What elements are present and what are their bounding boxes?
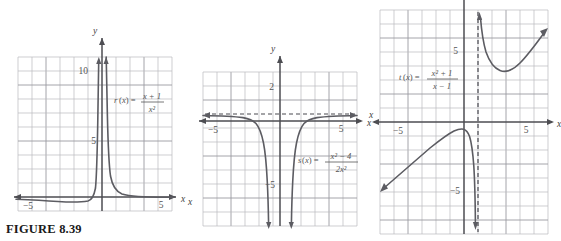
x-tick-neg5-s: −5 [208,125,218,135]
y-tick-5-r: 5 [91,136,96,146]
x-tick-neg5-r: −5 [23,201,33,211]
function-label-s: s (x) = x² − 4 2x² [298,151,358,174]
y-tick-2-s: 2 [269,82,274,92]
curve-r [16,57,174,202]
numerator-s: x² − 4 [330,151,352,161]
denominator-t: x − 1 [432,81,451,91]
function-arg-r: (x) = [119,95,136,105]
y-axis-label-s: y [270,44,276,54]
function-arg-t: (x) = [403,72,420,82]
denominator-s: 2x² [336,164,347,174]
graph-panel-r: 10 5 −5 5 y x r (x) = x + 1 x² [0,0,190,241]
function-name-r: r [114,95,118,105]
graph-svg-t: 5 −5 −5 5 x x t (x) = x² + 1 x − 1 [370,0,561,241]
x-axis-label-t: x [556,119,561,129]
denominator-r: x² [148,104,156,114]
function-name-t: t [399,72,402,82]
numerator-t: x² + 1 [431,68,453,78]
graph-panel-s: 2 −5 −5 5 y x x s (x) = x² − 4 2x² [185,0,375,241]
graph-svg-s: 2 −5 −5 5 y x x s (x) = x² − 4 2x² [185,0,375,241]
y-tick-neg5-t: −5 [450,186,460,196]
graph-panel-t: 5 −5 −5 5 x x t (x) = x² + 1 x − 1 [370,0,561,241]
x-tick-5-s: 5 [339,124,344,134]
axes-t [372,0,554,234]
figure-8-39: 10 5 −5 5 y x r (x) = x + 1 x² [0,0,561,241]
x-axis-label-left-s: x [187,197,193,207]
y-tick-5-t: 5 [453,46,458,56]
y-axis-label-r: y [92,26,98,36]
figure-caption: FIGURE 8.39 [6,222,82,237]
x-tick-5-t: 5 [524,125,529,135]
axes-s [199,56,363,226]
y-tick-10-r: 10 [79,66,89,76]
function-label-r: r (x) = x + 1 x² [114,91,164,114]
y-tick-neg5-s: −5 [265,180,275,190]
graph-svg-r: 10 5 −5 5 y x r (x) = x + 1 x² [0,0,190,241]
x-axis-label-left-t: x [368,110,374,120]
x-tick-5-r: 5 [159,200,164,210]
numerator-r: x + 1 [142,91,161,101]
function-arg-s: (x) = [302,155,319,165]
x-tick-neg5-t: −5 [393,126,403,136]
